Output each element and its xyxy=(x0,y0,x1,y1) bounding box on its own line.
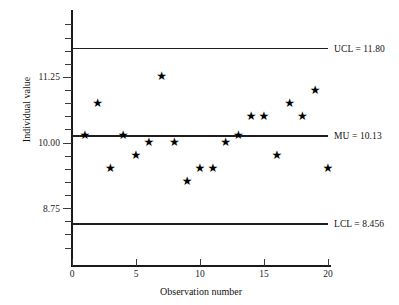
data-point-marker: ★ xyxy=(169,136,180,148)
y-axis-minor-tick xyxy=(65,182,72,183)
mu-label: MU = 10.13 xyxy=(334,131,382,141)
data-point-marker: ★ xyxy=(297,110,308,122)
y-axis-minor-tick xyxy=(65,24,72,25)
x-axis-tick-label: 20 xyxy=(313,269,343,280)
x-axis-tick xyxy=(200,259,201,266)
data-point-marker: ★ xyxy=(105,162,116,174)
y-axis-tick-label: 8.75 xyxy=(18,204,60,214)
data-point-marker: ★ xyxy=(220,136,231,148)
x-axis-line xyxy=(71,265,331,267)
y-axis-minor-tick xyxy=(65,156,72,157)
y-axis-major-tick xyxy=(63,143,72,144)
x-axis-tick xyxy=(328,259,329,266)
ucl-label: UCL = 11.80 xyxy=(334,44,385,54)
y-axis-minor-tick xyxy=(65,234,72,235)
plot-area: 8.7510.0011.25 05101520 UCL = 11.80MU = … xyxy=(0,0,399,305)
ucl-line xyxy=(72,48,328,49)
data-point-marker: ★ xyxy=(271,149,282,161)
x-axis-tick-label: 0 xyxy=(57,269,87,280)
y-axis-minor-tick xyxy=(65,103,72,104)
data-point-marker: ★ xyxy=(79,129,90,141)
data-point-marker: ★ xyxy=(233,129,244,141)
data-point-marker: ★ xyxy=(143,136,154,148)
y-axis-minor-tick xyxy=(65,169,72,170)
mu-line xyxy=(72,135,328,136)
y-axis-minor-tick xyxy=(65,64,72,65)
data-point-marker: ★ xyxy=(310,84,321,96)
data-point-marker: ★ xyxy=(131,149,142,161)
data-point-marker: ★ xyxy=(118,129,129,141)
x-axis-tick-label: 15 xyxy=(249,269,279,280)
data-point-marker: ★ xyxy=(246,110,257,122)
x-axis-tick-label: 10 xyxy=(185,269,215,280)
x-axis-tick xyxy=(136,259,137,266)
data-point-marker: ★ xyxy=(182,175,193,187)
y-axis-minor-tick xyxy=(65,38,72,39)
y-axis-major-tick xyxy=(63,77,72,78)
data-point-marker: ★ xyxy=(323,162,334,174)
y-axis-minor-tick xyxy=(65,90,72,91)
data-point-marker: ★ xyxy=(195,162,206,174)
data-point-marker: ★ xyxy=(207,162,218,174)
lcl-label: LCL = 8.456 xyxy=(334,219,384,229)
y-axis-minor-tick xyxy=(65,195,72,196)
x-axis-title: Observation number xyxy=(71,286,331,297)
y-axis-minor-tick xyxy=(65,248,72,249)
y-axis-minor-tick xyxy=(65,51,72,52)
y-axis-minor-tick xyxy=(65,116,72,117)
data-point-marker: ★ xyxy=(156,70,167,82)
y-axis-title: Individual value xyxy=(21,40,32,180)
y-axis-minor-tick xyxy=(65,129,72,130)
y-axis-minor-tick xyxy=(65,221,72,222)
control-chart-figure: 8.7510.0011.25 05101520 UCL = 11.80MU = … xyxy=(0,0,399,305)
data-point-marker: ★ xyxy=(259,110,270,122)
data-point-marker: ★ xyxy=(92,97,103,109)
x-axis-tick-label: 5 xyxy=(121,269,151,280)
x-axis-tick xyxy=(72,259,73,266)
data-point-marker: ★ xyxy=(284,97,295,109)
x-axis-tick xyxy=(264,259,265,266)
lcl-line xyxy=(72,223,328,224)
y-axis-major-tick xyxy=(63,208,72,209)
